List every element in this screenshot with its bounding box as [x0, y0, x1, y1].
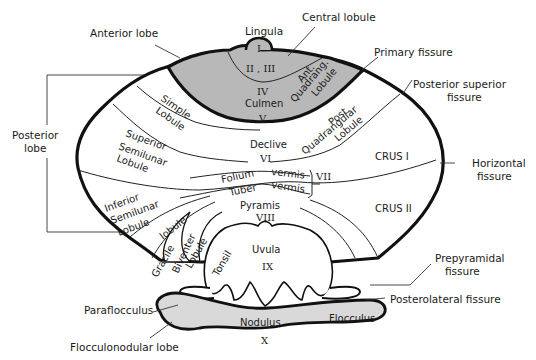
label-paraflocculus: Paraflocculus [84, 304, 153, 316]
posterior-superior-fissure-leader [402, 80, 412, 95]
label-flocculonodular-lobe: Flocculonodular lobe [70, 341, 179, 353]
label-uvula-num: IX [262, 261, 274, 272]
label-posterior-lobe-1: Posterior [12, 129, 59, 141]
label-horizontal-fissure-2: fissure [477, 170, 512, 182]
flocculonodular-leader [150, 322, 172, 338]
label-prepyramidal-fissure-2: fissure [445, 265, 480, 277]
label-nodulus-num: X [261, 335, 269, 346]
label-declive-num: VI [259, 153, 271, 164]
label-culmen-num-top: IV [257, 86, 269, 97]
label-vii-num: VII [315, 171, 331, 182]
anterior-lobe-leader [155, 45, 180, 58]
label-declive: Declive [250, 139, 287, 150]
label-posterior-lobe-2: lobe [24, 142, 46, 154]
label-culmen: Culmen [245, 98, 283, 109]
label-crus-1: CRUS I [375, 151, 409, 162]
label-culmen-num-bottom: V [258, 113, 267, 124]
label-flocculus: Flocculus [329, 313, 375, 324]
label-central-lobule: Central lobule [302, 11, 376, 23]
label-pyramis: Pyramis [240, 200, 280, 211]
cerebellum-diagram: Anterior lobe Lingula Central lobule Pri… [0, 0, 536, 360]
primary-fissure-leader [362, 57, 378, 70]
label-horizontal-fissure-1: Horizontal [472, 157, 526, 169]
label-uvula: Uvula [252, 244, 280, 255]
label-crus-2: CRUS II [375, 203, 412, 214]
label-lingula: Lingula [245, 25, 283, 37]
prepyramidal-fissure-leader [370, 264, 431, 285]
label-posterior-superior-fissure-1: Posterior superior [413, 78, 507, 90]
label-posterolateral-fissure: Posterolateral fissure [390, 293, 501, 305]
label-nodulus: Nodulus [240, 317, 281, 328]
label-lingula-num: I [257, 43, 261, 54]
label-prepyramidal-fissure-1: Prepyramidal [435, 252, 505, 264]
label-pyramis-num: VIII [255, 212, 275, 223]
label-primary-fissure: Primary fissure [374, 46, 453, 58]
label-anterior-lobe: Anterior lobe [90, 27, 158, 39]
label-central-num: II , III [246, 63, 275, 74]
label-posterior-superior-fissure-2: fissure [447, 91, 482, 103]
